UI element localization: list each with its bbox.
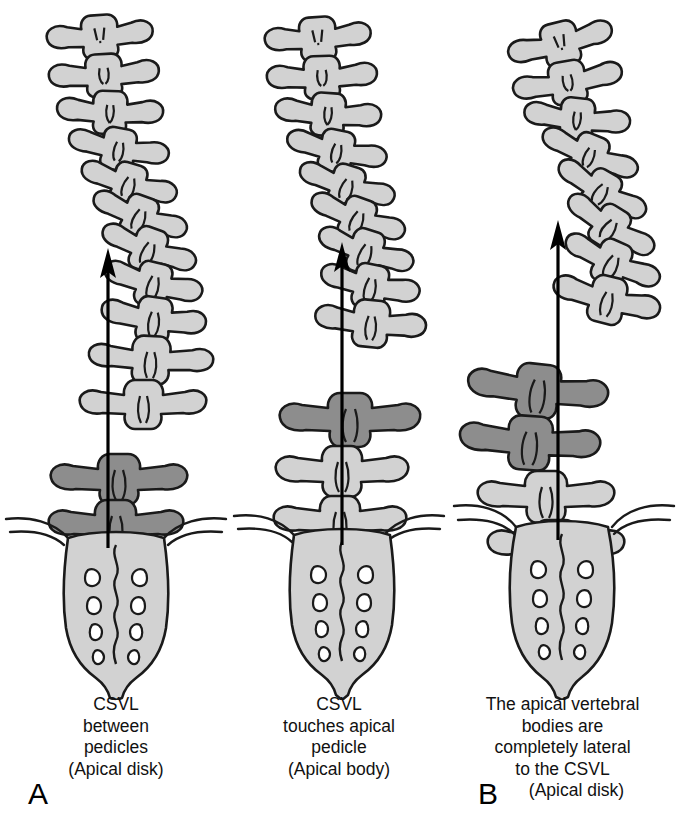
spine-illustration-a xyxy=(0,0,232,700)
sacrum-b xyxy=(290,529,394,700)
figure-container: CSVL between pedicles (Apical disk) A xyxy=(0,0,679,819)
caption-c-line-5: (Apical disk) xyxy=(446,780,679,802)
thoracic-segment-b xyxy=(263,13,428,352)
spine-illustration-b xyxy=(232,0,446,700)
apical-vertebrae-c xyxy=(458,357,611,475)
caption-c-line-4: to the CSVL xyxy=(446,759,679,781)
caption-c-line-1: The apical vertebral xyxy=(446,694,679,716)
caption-b-line-4: (Apical body) xyxy=(232,759,446,781)
caption-c: The apical vertebral bodies are complete… xyxy=(446,694,679,802)
caption-c-line-3: completely lateral xyxy=(446,737,679,759)
sacrum-c xyxy=(510,521,614,700)
panel-c: The apical vertebral bodies are complete… xyxy=(446,0,679,819)
caption-b: CSVL touches apical pedicle (Apical body… xyxy=(232,694,446,780)
panel-b: CSVL touches apical pedicle (Apical body… xyxy=(232,0,446,819)
panel-letter-a: A xyxy=(28,779,48,809)
caption-a: CSVL between pedicles (Apical disk) xyxy=(0,694,232,780)
caption-b-line-2: touches apical xyxy=(232,716,446,738)
panel-a: CSVL between pedicles (Apical disk) A xyxy=(0,0,232,819)
apical-vertebrae-b xyxy=(280,393,421,447)
caption-a-line-3: pedicles xyxy=(0,737,232,759)
thoracic-segment-a xyxy=(45,11,214,429)
spine-illustration-c xyxy=(446,0,679,700)
caption-c-line-2: bodies are xyxy=(446,716,679,738)
caption-a-line-2: between xyxy=(0,716,232,738)
caption-b-line-3: pedicle xyxy=(232,737,446,759)
caption-a-line-1: CSVL xyxy=(0,694,232,716)
sacrum-a xyxy=(64,532,168,700)
caption-b-line-1: CSVL xyxy=(232,694,446,716)
thoracic-segment-c xyxy=(504,10,667,336)
